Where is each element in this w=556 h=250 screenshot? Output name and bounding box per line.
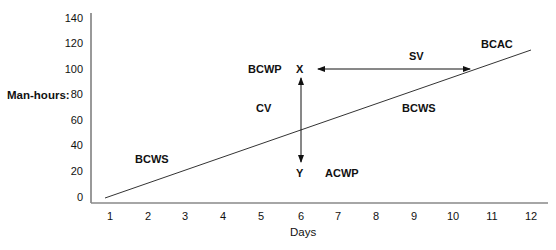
x-tick: 12 (521, 210, 541, 222)
y-tick: 120 (53, 37, 83, 49)
x-tick: 6 (291, 210, 311, 222)
bcws-line (105, 50, 531, 198)
annotation-sv: SV (409, 50, 424, 62)
x-tick: 8 (366, 210, 386, 222)
annotation-bcws-left: BCWS (135, 153, 169, 165)
chart-canvas (0, 0, 556, 250)
y-tick: 60 (53, 114, 83, 126)
y-tick: 140 (53, 12, 83, 24)
y-tick: 20 (53, 165, 83, 177)
x-tick: 7 (328, 210, 348, 222)
x-tick: 10 (443, 210, 463, 222)
x-tick: 3 (175, 210, 195, 222)
x-tick: 2 (138, 210, 158, 222)
annotation-cv: CV (256, 102, 271, 114)
y-tick: 80 (53, 88, 83, 100)
point-x: X (296, 63, 303, 75)
y-tick: 40 (53, 139, 83, 151)
y-tick: 100 (53, 63, 83, 75)
x-tick: 1 (100, 210, 120, 222)
annotation-bcwp: BCWP (248, 63, 282, 75)
annotation-bcws-right: BCWS (402, 102, 436, 114)
point-y: Y (296, 167, 303, 179)
x-axis-label: Days (290, 226, 316, 238)
x-tick: 5 (251, 210, 271, 222)
annotation-acwp: ACWP (325, 167, 359, 179)
annotation-bcac: BCAC (481, 38, 513, 50)
x-tick: 11 (482, 210, 502, 222)
x-tick: 4 (213, 210, 233, 222)
x-tick: 9 (404, 210, 424, 222)
y-tick: 0 (53, 191, 83, 203)
